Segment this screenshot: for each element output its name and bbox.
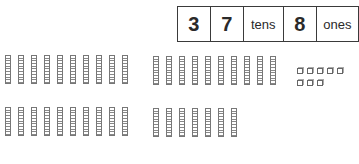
place-value-table: 3 7 tens 8 ones xyxy=(177,6,359,42)
tens-rod-group-bottom-middle xyxy=(153,108,237,137)
tens-rod-icon xyxy=(83,55,89,84)
tens-rod-group-top-left xyxy=(5,55,128,84)
ones-digit-cell: 8 xyxy=(283,7,316,42)
tens-rod-icon xyxy=(57,55,63,84)
tens-rod-icon xyxy=(166,108,172,137)
unit-cube-icon xyxy=(297,68,303,74)
unit-cube-icon xyxy=(307,80,313,86)
tens-rod-icon xyxy=(231,56,237,85)
tens-rod-icon xyxy=(83,107,89,136)
tens-digit-cell-2: 7 xyxy=(210,7,243,42)
tens-rod-icon xyxy=(57,107,63,136)
unit-cubes-group xyxy=(297,68,345,86)
tens-digit-cell: 3 xyxy=(178,7,211,42)
unit-cube-icon xyxy=(327,68,333,74)
tens-rod-icon xyxy=(96,55,102,84)
tens-rod-group-bottom-left xyxy=(5,107,128,136)
tens-rod-icon xyxy=(270,56,276,85)
tens-rod-icon xyxy=(153,108,159,137)
tens-rod-icon xyxy=(218,108,224,137)
tens-rod-icon xyxy=(179,108,185,137)
tens-rod-icon xyxy=(70,55,76,84)
tens-rod-icon xyxy=(122,55,128,84)
tens-rod-icon xyxy=(70,107,76,136)
unit-cube-icon xyxy=(297,80,303,86)
tens-rod-icon xyxy=(166,56,172,85)
tens-rod-icon xyxy=(96,107,102,136)
unit-cube-icon xyxy=(307,68,313,74)
tens-rod-icon xyxy=(205,108,211,137)
tens-rod-icon xyxy=(44,107,50,136)
tens-rod-icon xyxy=(179,56,185,85)
tens-rod-icon xyxy=(5,107,11,136)
ones-label-cell: ones xyxy=(316,7,358,42)
tens-rod-icon xyxy=(109,55,115,84)
tens-rod-icon xyxy=(244,56,250,85)
tens-label-cell: tens xyxy=(243,7,283,42)
tens-rod-icon xyxy=(18,55,24,84)
tens-rod-group-top-middle xyxy=(153,56,276,85)
tens-rod-icon xyxy=(109,107,115,136)
tens-rod-icon xyxy=(192,56,198,85)
tens-rod-icon xyxy=(257,56,263,85)
unit-cube-icon xyxy=(337,68,343,74)
tens-rod-icon xyxy=(231,108,237,137)
tens-rod-icon xyxy=(218,56,224,85)
tens-rod-icon xyxy=(18,107,24,136)
tens-rod-icon xyxy=(153,56,159,85)
tens-rod-icon xyxy=(205,56,211,85)
unit-cube-icon xyxy=(317,80,323,86)
tens-rod-icon xyxy=(122,107,128,136)
tens-rod-icon xyxy=(31,107,37,136)
tens-rod-icon xyxy=(44,55,50,84)
tens-rod-icon xyxy=(5,55,11,84)
unit-cube-icon xyxy=(317,68,323,74)
tens-rod-icon xyxy=(192,108,198,137)
tens-rod-icon xyxy=(31,55,37,84)
